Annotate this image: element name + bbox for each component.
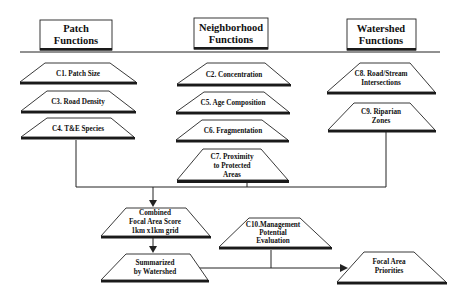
svg-text:Focal Area: Focal Area [372,258,406,266]
svg-text:C5. Age Composition: C5. Age Composition [201,99,266,107]
svg-text:Combined: Combined [139,209,171,217]
criterion-c7-proximity-protected-areas: C7. Proximity to Protected Areas [177,149,289,183]
criterion-c2-concentration: C2. Concentration [177,63,291,87]
svg-text:Focal Area Score: Focal Area Score [129,218,181,226]
criterion-c9-riparian-zones: C9. Riparian Zones [328,103,436,133]
svg-text:C1. Patch Size: C1. Patch Size [56,70,100,78]
svg-text:Neighborhood: Neighborhood [199,22,263,33]
criterion-c1-patch-size: C1. Patch Size [20,63,137,85]
svg-text:Priorities: Priorities [375,267,404,275]
svg-text:Evaluation: Evaluation [256,237,290,245]
svg-text:Functions: Functions [209,34,253,45]
focal-area-flow-diagram: Patch Functions Neighborhood Functions W… [0,0,463,301]
criterion-c8-road-stream-intersections: C8. Road/Stream Intersections [327,63,436,95]
header-patch-functions: Patch Functions [40,20,112,51]
criterion-c10-management-potential: C10.Management Potential Evaluation [219,218,332,250]
criterion-c5-age-composition: C5. Age Composition [176,92,290,115]
svg-text:Functions: Functions [359,35,403,46]
svg-text:Functions: Functions [54,35,98,46]
svg-text:C3. Road Density: C3. Road Density [51,98,105,106]
svg-text:Patch: Patch [63,23,89,34]
criterion-c6-fragmentation: C6. Fragmentation [176,120,289,143]
focal-area-priorities: Focal Area Priorities [337,252,447,285]
svg-text:C2. Concentration: C2. Concentration [206,71,263,79]
header-watershed-functions: Watershed Functions [347,19,416,51]
summarized-by-watershed: Summarized by Watershed [101,254,209,283]
svg-text:Intersections: Intersections [361,79,401,87]
svg-text:C4. T&E Species: C4. T&E Species [52,125,104,133]
svg-text:C7. Proximity: C7. Proximity [211,153,254,161]
svg-text:by Watershed: by Watershed [134,268,176,276]
svg-text:C6. Fragmentation: C6. Fragmentation [204,127,262,135]
svg-text:Potential: Potential [259,229,287,237]
svg-text:Zones: Zones [372,117,391,125]
criterion-c4-te-species: C4. T&E Species [21,118,135,140]
svg-text:1km x1km grid: 1km x1km grid [131,227,178,235]
criterion-c3-road-density: C3. Road Density [21,91,136,114]
svg-text:Areas: Areas [223,171,241,179]
svg-text:C9. Riparian: C9. Riparian [361,108,401,116]
svg-text:Watershed: Watershed [357,23,406,34]
svg-text:Summarized: Summarized [135,259,174,267]
svg-text:to Protected: to Protected [213,162,250,170]
svg-text:C8. Road/Stream: C8. Road/Stream [355,70,408,78]
svg-text:C10.Management: C10.Management [246,221,301,229]
header-neighborhood-functions: Neighborhood Functions [194,18,268,50]
combined-focal-area-score: Combined Focal Area Score 1km x1km grid [101,208,211,239]
